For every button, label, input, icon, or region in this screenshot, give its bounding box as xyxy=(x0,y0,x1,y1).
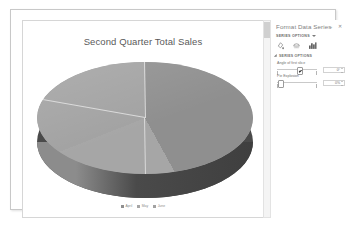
series-options-dropdown[interactable]: SERIES OPTIONS xyxy=(276,34,316,38)
angle-of-first-slice-field: Angle of first slice 0° xyxy=(277,61,345,73)
pie-explosion-row: 0% xyxy=(277,79,345,86)
series-options-dropdown-label: SERIES OPTIONS xyxy=(276,34,310,38)
pie-top-surface[interactable] xyxy=(37,62,253,174)
chevron-down-icon xyxy=(312,35,316,37)
angle-of-first-slice-input[interactable]: 0° xyxy=(323,67,345,73)
pane-header-buttons: ⌄ ✕ xyxy=(328,23,343,29)
spinner-arrows-icon[interactable] xyxy=(341,68,344,73)
format-data-series-pane: Format Data Series ⌄ ✕ SERIES OPTIONS xyxy=(270,20,346,216)
series-options-icon[interactable] xyxy=(308,41,317,50)
pie-chart-3d[interactable] xyxy=(37,58,253,198)
angle-of-first-slice-row: 0° xyxy=(277,66,345,73)
chart-title[interactable]: Second Quarter Total Sales xyxy=(23,36,263,47)
chevron-expanded-icon xyxy=(274,54,278,58)
fill-and-line-icon[interactable] xyxy=(276,41,285,50)
pie-explosion-value: 0% xyxy=(335,81,340,85)
chart-object[interactable]: Second Quarter Total Sales April xyxy=(22,20,264,218)
legend-label: June xyxy=(158,204,165,208)
legend-swatch-icon xyxy=(153,205,156,208)
legend-label: May xyxy=(142,204,148,208)
pane-icon-tabs xyxy=(276,41,317,50)
pie-explosion-input[interactable]: 0% xyxy=(323,80,345,86)
legend-label: April xyxy=(125,204,132,208)
legend-item[interactable]: April xyxy=(121,204,132,208)
legend-swatch-icon xyxy=(121,205,124,208)
angle-of-first-slice-label: Angle of first slice xyxy=(277,61,345,65)
legend-swatch-icon xyxy=(137,205,140,208)
angle-of-first-slice-value: 0° xyxy=(337,68,340,72)
close-icon[interactable]: ✕ xyxy=(337,23,343,29)
chart-legend[interactable]: April May June xyxy=(23,204,263,208)
legend-item[interactable]: June xyxy=(153,204,165,208)
pane-collapse-icon[interactable]: ⌄ xyxy=(328,23,334,29)
legend-item[interactable]: May xyxy=(137,204,148,208)
slider-tick-icon xyxy=(316,84,317,88)
pie-explosion-field: Pie Explosion 0% xyxy=(277,74,345,86)
series-options-section-label: SERIES OPTIONS xyxy=(279,54,312,58)
pane-title: Format Data Series xyxy=(276,23,331,30)
workbook-window: Second Quarter Total Sales April xyxy=(10,9,336,210)
pie-explosion-thumb[interactable] xyxy=(278,80,284,88)
series-options-section-header[interactable]: SERIES OPTIONS xyxy=(275,54,312,58)
pie-explosion-label: Pie Explosion xyxy=(277,74,345,78)
effects-icon[interactable] xyxy=(292,41,301,50)
spinner-arrows-icon[interactable] xyxy=(341,81,344,86)
